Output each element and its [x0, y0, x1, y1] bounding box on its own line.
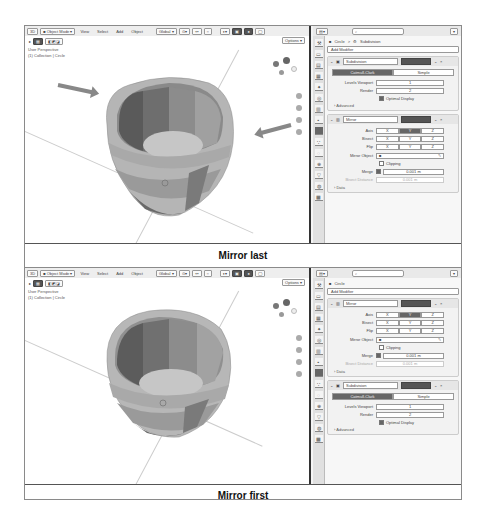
collapse-chevron-icon[interactable]: ⌄	[330, 301, 333, 306]
gizmo-y-axis[interactable]	[279, 312, 284, 317]
flip-z-toggle[interactable]: Z	[421, 328, 444, 334]
gizmo-y-axis[interactable]	[279, 70, 284, 75]
tab-physics[interactable]: ◌	[315, 391, 323, 399]
properties-options-button[interactable]: ▾	[450, 270, 458, 277]
add-modifier-dropdown[interactable]: Add Modifier	[327, 46, 459, 53]
select-box-tool[interactable]: ▦	[33, 38, 43, 45]
bisect-x-toggle[interactable]: X	[376, 136, 399, 142]
gizmo-neg-axis[interactable]	[291, 66, 297, 72]
merge-checkbox[interactable]	[376, 169, 381, 174]
tab-texture[interactable]: ▩	[315, 435, 323, 443]
tab-tool[interactable]: ⚒	[315, 281, 323, 289]
tab-modifiers[interactable]	[315, 369, 323, 377]
tab-collection[interactable]: ▥	[315, 347, 323, 355]
play-icon[interactable]: ▸	[29, 39, 31, 44]
menu-view[interactable]: View	[77, 271, 92, 276]
visibility-dropdown[interactable]: ◐▾	[220, 28, 230, 35]
modifier-visibility-toggles[interactable]	[401, 382, 431, 389]
close-icon[interactable]: ×	[440, 117, 442, 122]
flip-y-toggle[interactable]: Y	[399, 144, 422, 150]
xray-button[interactable]: ▣	[232, 270, 242, 277]
visibility-dropdown[interactable]: ◐▾	[220, 270, 230, 277]
axis-y-toggle[interactable]: Y	[399, 128, 422, 134]
editor-type-button[interactable]: 3D	[27, 270, 38, 277]
pivot-dropdown[interactable]: ⊙▾	[179, 28, 190, 35]
data-subpanel[interactable]: › Data	[328, 368, 458, 376]
gizmo-neg-axis[interactable]	[291, 308, 297, 314]
perspective-toggle-icon[interactable]	[296, 371, 302, 377]
flip-z-toggle[interactable]: Z	[421, 144, 444, 150]
tab-view-layer[interactable]: ▦	[315, 72, 323, 80]
tab-data[interactable]: ▽	[315, 171, 323, 179]
tab-particles[interactable]: ∵	[315, 138, 323, 146]
modifier-visibility-toggles[interactable]	[401, 116, 431, 123]
modifier-header[interactable]: ⌄ ▥ Mirror ⌄ ×	[328, 115, 458, 124]
bisect-z-toggle[interactable]: Z	[421, 320, 444, 326]
transform-orientation-dropdown[interactable]: Global ▾	[156, 270, 177, 277]
levels-viewport-field[interactable]: 1	[376, 404, 444, 410]
tab-data[interactable]: ▽	[315, 413, 323, 421]
tab-object[interactable]: ▪	[315, 116, 323, 124]
modifier-menu-chevron[interactable]: ⌄	[434, 59, 437, 64]
modifier-name-field[interactable]: Mirror	[343, 300, 398, 307]
tab-render[interactable]: ▭	[315, 50, 323, 58]
modifier-name-field[interactable]: Subdivision	[343, 382, 398, 389]
merge-checkbox[interactable]	[376, 353, 381, 358]
axis-x-toggle[interactable]: X	[376, 128, 399, 134]
select-mode-buttons[interactable]: ◧◩◪	[45, 38, 63, 45]
mode-dropdown[interactable]: ■ Object Mode ▾	[40, 270, 75, 277]
clipping-checkbox[interactable]	[379, 345, 384, 350]
tab-view-layer[interactable]: ▦	[315, 314, 323, 322]
tab-texture[interactable]: ▩	[315, 193, 323, 201]
render-levels-field[interactable]: 2	[376, 88, 444, 94]
tab-world[interactable]: ◎	[315, 336, 323, 344]
bisect-distance-field[interactable]: 0.001 m	[376, 177, 444, 183]
shading-wire-button[interactable]: ◯	[255, 28, 265, 35]
properties-search-input[interactable]	[352, 270, 404, 277]
menu-select[interactable]: Select	[94, 271, 111, 276]
bisect-y-toggle[interactable]: Y	[399, 136, 422, 142]
bisect-distance-field[interactable]: 0.001 m	[376, 361, 444, 367]
shading-wire-button[interactable]: ◯	[255, 270, 265, 277]
camera-icon[interactable]	[296, 117, 302, 123]
tab-physics[interactable]: ◌	[315, 149, 323, 157]
tab-output[interactable]: ▤	[315, 61, 323, 69]
close-icon[interactable]: ×	[440, 383, 442, 388]
perspective-toggle-icon[interactable]	[296, 129, 302, 135]
gizmo-z-axis[interactable]	[283, 57, 290, 64]
simple-button[interactable]: Simple	[393, 393, 454, 400]
flip-y-toggle[interactable]: Y	[399, 328, 422, 334]
gizmo-x-axis[interactable]	[273, 61, 279, 67]
tab-particles[interactable]: ∵	[315, 380, 323, 388]
properties-options-button[interactable]: ▾	[450, 28, 458, 35]
gizmo-x-axis[interactable]	[273, 303, 279, 309]
mode-dropdown[interactable]: ■ Object Mode ▾	[40, 28, 75, 35]
proportional-edit-button[interactable]: ○	[204, 270, 212, 277]
menu-add[interactable]: Add	[113, 29, 126, 34]
pivot-dropdown[interactable]: ⊙▾	[179, 270, 190, 277]
3d-viewport[interactable]: 3D ■ Object Mode ▾ View Select Add Objec…	[25, 26, 311, 243]
collapse-chevron-icon[interactable]: ⌄	[330, 59, 333, 64]
properties-editor-type-button[interactable]: ▤▾	[316, 270, 328, 277]
navigation-gizmo[interactable]	[269, 53, 299, 83]
flip-x-toggle[interactable]: X	[376, 328, 399, 334]
tab-render[interactable]: ▭	[315, 292, 323, 300]
tab-object[interactable]: ▪	[315, 358, 323, 366]
modifier-header[interactable]: ⌄ ▣ Subdivision ⌄ ×	[328, 57, 458, 66]
menu-object[interactable]: Object	[128, 271, 146, 276]
clipping-checkbox[interactable]	[379, 161, 384, 166]
axis-y-toggle[interactable]: Y	[399, 312, 422, 318]
axis-x-toggle[interactable]: X	[376, 312, 399, 318]
zoom-icon[interactable]	[296, 93, 302, 99]
collapse-chevron-icon[interactable]: ⌄	[330, 117, 333, 122]
close-icon[interactable]: ×	[440, 59, 442, 64]
bisect-y-toggle[interactable]: Y	[399, 320, 422, 326]
bisect-z-toggle[interactable]: Z	[421, 136, 444, 142]
optimal-display-checkbox[interactable]	[379, 420, 384, 425]
catmull-clark-button[interactable]: Catmull-Clark	[332, 393, 393, 400]
axis-z-toggle[interactable]: Z	[421, 128, 444, 134]
mirror-object-field[interactable]: ■✎	[376, 153, 444, 159]
tab-tool[interactable]: ⚒	[315, 39, 323, 47]
play-icon[interactable]: ▸	[29, 281, 31, 286]
options-dropdown[interactable]: Options ▾	[282, 37, 305, 44]
